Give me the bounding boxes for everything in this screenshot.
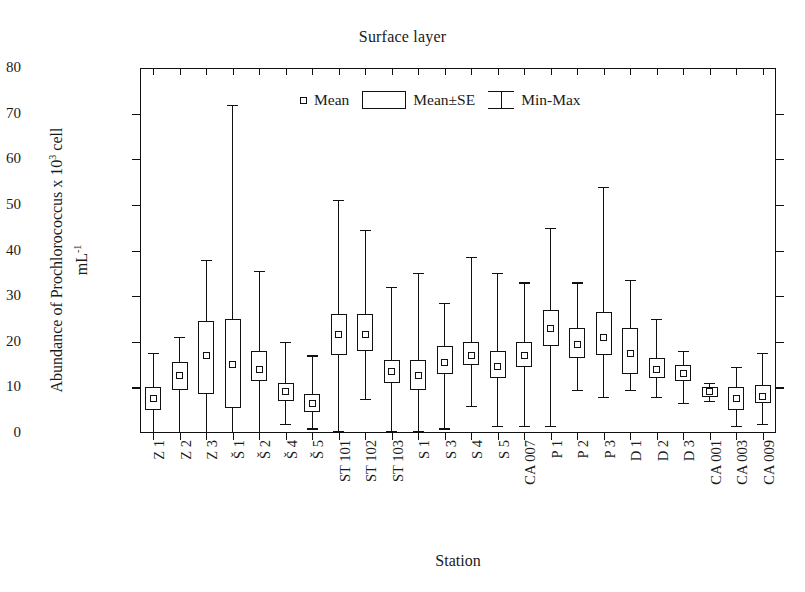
min-cap xyxy=(651,397,662,398)
y-tick-mark xyxy=(132,159,140,160)
x-tick-mark xyxy=(630,433,631,440)
x-tick-mark-top xyxy=(736,68,737,75)
mean-marker xyxy=(547,325,554,332)
mean-marker xyxy=(150,395,157,402)
max-cap xyxy=(757,353,768,354)
min-cap xyxy=(439,428,450,429)
x-tick-mark xyxy=(312,433,313,440)
max-cap xyxy=(466,257,477,258)
max-cap xyxy=(492,273,503,274)
max-cap xyxy=(678,351,689,352)
max-cap xyxy=(731,367,742,368)
x-tick-label: P 2 xyxy=(575,440,592,458)
mean-marker xyxy=(362,331,369,338)
min-cap xyxy=(466,406,477,407)
x-tick-mark xyxy=(657,433,658,440)
x-tick-mark xyxy=(551,433,552,440)
x-tick-label: S 1 xyxy=(416,440,433,459)
min-cap xyxy=(598,397,609,398)
x-tick-mark-top xyxy=(312,68,313,75)
whisker-line xyxy=(312,355,313,428)
box-plot-figure: Surface layer Abundance of Prochlorococc… xyxy=(0,0,805,592)
y-tick-mark-right xyxy=(776,296,784,297)
y-axis-title-exponent2: -1 xyxy=(72,245,83,253)
min-cap xyxy=(704,401,715,402)
x-tick-mark-top xyxy=(763,68,764,75)
min-cap xyxy=(174,432,185,433)
x-tick-mark xyxy=(286,433,287,440)
mean-marker xyxy=(176,372,183,379)
min-cap xyxy=(227,432,238,433)
min-cap xyxy=(757,424,768,425)
x-tick-label: D 2 xyxy=(654,440,671,461)
x-tick-mark-top xyxy=(551,68,552,75)
x-tick-label: P 3 xyxy=(601,440,618,458)
x-tick-mark-top xyxy=(683,68,684,75)
x-tick-label: S 3 xyxy=(442,440,459,459)
x-tick-mark-top xyxy=(153,68,154,75)
min-cap xyxy=(731,426,742,427)
min-cap xyxy=(360,399,371,400)
max-cap xyxy=(174,337,185,338)
min-cap xyxy=(492,426,503,427)
y-tick-mark xyxy=(132,342,140,343)
x-tick-mark-top xyxy=(471,68,472,75)
y-tick-label: 70 xyxy=(0,105,21,122)
y-tick-label: 30 xyxy=(0,287,21,304)
legend-item-mean: Mean xyxy=(300,91,349,109)
min-cap xyxy=(572,390,583,391)
max-cap xyxy=(360,230,371,231)
max-cap xyxy=(227,105,238,106)
x-tick-mark xyxy=(445,433,446,440)
x-tick-label: Z 2 xyxy=(177,440,194,460)
min-cap xyxy=(519,426,530,427)
x-tick-mark-top xyxy=(524,68,525,75)
x-tick-label: Š 4 xyxy=(283,440,300,459)
legend: Mean Mean±SE Min-Max xyxy=(300,88,581,112)
x-tick-mark xyxy=(153,433,154,440)
max-cap xyxy=(307,355,318,356)
x-tick-mark xyxy=(471,433,472,440)
whisker-line xyxy=(391,287,392,431)
max-cap xyxy=(333,200,344,201)
min-cap xyxy=(625,390,636,391)
y-tick-mark-right xyxy=(776,251,784,252)
mean-marker xyxy=(309,400,316,407)
x-tick-mark-top xyxy=(286,68,287,75)
max-cap xyxy=(625,280,636,281)
max-cap xyxy=(519,282,530,283)
mean-marker xyxy=(468,352,475,359)
max-cap xyxy=(704,383,715,384)
mean-marker xyxy=(441,359,448,366)
mean-marker xyxy=(680,370,687,377)
x-tick-mark-top xyxy=(233,68,234,75)
mean-marker xyxy=(282,388,289,395)
x-tick-mark xyxy=(365,433,366,440)
min-cap xyxy=(254,432,265,433)
mean-marker xyxy=(627,350,634,357)
y-tick-mark xyxy=(132,205,140,206)
x-tick-label: CA 001 xyxy=(707,440,724,485)
x-tick-label: S 4 xyxy=(469,440,486,459)
y-tick-label: 40 xyxy=(0,242,21,259)
y-tick-mark-right xyxy=(776,114,784,115)
x-tick-mark xyxy=(206,433,207,440)
x-tick-label: Z 1 xyxy=(151,440,168,460)
x-tick-label: Š 5 xyxy=(310,440,327,459)
min-cap xyxy=(307,428,318,429)
min-cap xyxy=(280,424,291,425)
x-tick-mark-top xyxy=(259,68,260,75)
x-tick-mark xyxy=(392,433,393,440)
x-tick-mark xyxy=(339,433,340,440)
mean-marker xyxy=(706,388,713,395)
x-tick-mark-top xyxy=(339,68,340,75)
x-tick-label: CA 007 xyxy=(522,440,539,485)
max-cap xyxy=(598,187,609,188)
x-tick-mark-top xyxy=(418,68,419,75)
legend-item-mean-se: Mean±SE xyxy=(362,91,475,109)
whisker-icon xyxy=(488,91,514,109)
x-tick-mark xyxy=(418,433,419,440)
x-tick-mark-top xyxy=(180,68,181,75)
min-cap xyxy=(148,432,159,433)
max-cap xyxy=(280,342,291,343)
